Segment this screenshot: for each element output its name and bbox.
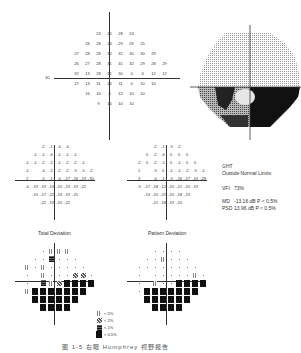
p05-symbol-icon (176, 288, 182, 295)
pattern-deviation-prob-cell (191, 279, 199, 287)
pattern-deviation-value-cell (135, 151, 143, 159)
pattern-deviation-prob-cell (127, 263, 135, 271)
threshold-cell (82, 100, 93, 110)
pattern-deviation-value-cell (135, 191, 143, 199)
total-deviation-value-cell: -2 (63, 167, 71, 175)
p05-symbol-icon (184, 288, 190, 295)
total-deviation-value-cell (87, 199, 95, 207)
total-deviation-value-cell: 2 (23, 175, 31, 183)
p5-symbol-icon (65, 249, 69, 254)
pattern-deviation-prob-cell (143, 255, 151, 263)
normal-dot-icon (187, 267, 188, 268)
threshold-cell (60, 40, 71, 50)
pattern-deviation-prob-cell (175, 279, 183, 287)
pattern-deviation-prob-cell (151, 287, 159, 295)
total-deviation-value-cell (23, 143, 31, 151)
pattern-deviation-value-cell: -1 (159, 143, 167, 151)
normal-dot-icon (67, 267, 68, 268)
threshold-cell: 4 (137, 70, 148, 80)
pattern-deviation-prob-cell (183, 287, 191, 295)
pattern-deviation-title: Pattern Deviation (148, 230, 186, 236)
normal-dot-icon (195, 267, 196, 268)
total-deviation-values-plot: -2-1-4-4-1-1-6-1-1-1-1-1-2-2-1-2-2-1-1-4… (0, 140, 110, 220)
pattern-deviation-value-cell: -1 (159, 175, 167, 183)
pattern-deviation-prob-cell (199, 247, 207, 255)
pattern-deviation-prob-cell (167, 247, 175, 255)
threshold-cell: 27 (71, 80, 82, 90)
p5-symbol-icon (57, 249, 61, 254)
total-deviation-value-cell: -1 (47, 175, 55, 183)
p05-symbol-icon (200, 280, 206, 287)
pattern-deviation-prob-cell (167, 295, 175, 303)
total-deviation-prob-cell (31, 279, 39, 287)
p05-symbol-icon (160, 288, 166, 295)
threshold-cell: 10 (104, 100, 115, 110)
pattern-deviation-prob-cell (135, 303, 143, 311)
pattern-deviation-value-cell (127, 183, 135, 191)
pattern-deviation-value-cell: -1 (175, 167, 183, 175)
total-deviation-prob-grid (15, 247, 95, 311)
total-deviation-prob-cell (15, 295, 23, 303)
pattern-deviation-prob-cell (151, 303, 159, 311)
pattern-deviation-prob-cell (167, 271, 175, 279)
pattern-deviation-value-cell: -2 (175, 143, 183, 151)
pattern-deviation-value-cell: -2 (151, 159, 159, 167)
total-deviation-value-cell: -25 (71, 191, 79, 199)
total-deviation-prob-cell (71, 255, 79, 263)
p05-symbol-icon (144, 296, 150, 303)
md-label: MD (222, 198, 234, 205)
total-deviation-value-cell (79, 199, 87, 207)
pattern-deviation-prob-cell (199, 279, 207, 287)
total-deviation-prob-cell (31, 247, 39, 255)
total-deviation-prob-cell (55, 295, 63, 303)
threshold-cell (137, 30, 148, 40)
threshold-cell (60, 50, 71, 60)
normal-dot-icon (163, 251, 164, 252)
total-deviation-value-cell: -2 (39, 159, 47, 167)
pattern-deviation-prob-cell (199, 295, 207, 303)
threshold-cell (159, 30, 170, 40)
pattern-deviation-prob-grid (127, 247, 207, 311)
pattern-deviation-prob-cell (199, 271, 207, 279)
threshold-cell: 12 (115, 90, 126, 100)
greyscale-map: 30 (190, 15, 301, 130)
total-deviation-prob-cell (15, 247, 23, 255)
threshold-cell: 27 (82, 60, 93, 70)
threshold-plot: 30 2425282426282429292527282830313030292… (20, 0, 180, 140)
pattern-deviation-prob-cell (127, 255, 135, 263)
pattern-deviation-prob-cell (167, 255, 175, 263)
p5-symbol-icon (25, 289, 29, 294)
threshold-cell: 28 (93, 40, 104, 50)
p5-symbol-icon (25, 265, 29, 270)
pattern-deviation-value-cell (127, 151, 135, 159)
p05-symbol-icon (168, 288, 174, 295)
pattern-deviation-value-cell (199, 199, 207, 207)
total-deviation-value-cell: -22 (63, 199, 71, 207)
pattern-deviation-prob-cell (175, 271, 183, 279)
total-deviation-prob-cell (79, 287, 87, 295)
pattern-deviation-value-cell: -17 (143, 183, 151, 191)
vfi-label: VFI (222, 185, 234, 192)
normal-dot-icon (51, 267, 52, 268)
threshold-cell (137, 100, 148, 110)
p05-symbol-icon (176, 296, 182, 303)
normal-dot-icon (171, 275, 172, 276)
legend-item: < 0.5% (96, 331, 117, 338)
p2-symbol-icon (81, 273, 86, 278)
pattern-deviation-prob-cell (191, 271, 199, 279)
pattern-deviation-value-cell: -3 (135, 183, 143, 191)
pattern-deviation-prob-cell (143, 287, 151, 295)
total-deviation-value-cell: -4 (39, 167, 47, 175)
normal-dot-icon (35, 267, 36, 268)
total-deviation-value-cell: -1 (79, 159, 87, 167)
total-deviation-value-cell (71, 199, 79, 207)
total-deviation-prob-cell (23, 287, 31, 295)
pattern-deviation-prob-cell (143, 279, 151, 287)
pattern-deviation-value-cell (143, 199, 151, 207)
pattern-deviation-prob-cell (175, 303, 183, 311)
p05-symbol-icon (56, 296, 62, 303)
total-deviation-value-cell (23, 151, 31, 159)
total-deviation-value-cell: -1 (31, 159, 39, 167)
total-deviation-value-cell: -15 (31, 191, 39, 199)
total-deviation-prob-cell (23, 255, 31, 263)
